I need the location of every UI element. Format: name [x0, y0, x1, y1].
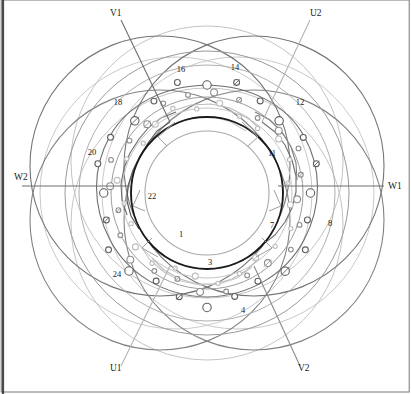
slot-label-1: 1	[179, 229, 183, 239]
coil-node	[106, 247, 112, 253]
slot-label-7: 7	[270, 220, 274, 230]
coil-node	[125, 157, 129, 161]
coil-node	[203, 81, 211, 89]
coil-node	[305, 217, 311, 223]
winding-diagram-svg: V1U2W1W2U1V2 161418122011227813244	[0, 0, 411, 394]
winding-diagram-figure: V1U2W1W2U1V2 161418122011227813244	[0, 0, 411, 394]
coil-node	[224, 289, 229, 294]
coil-node	[245, 273, 250, 278]
coil-node	[153, 278, 159, 284]
coil-node	[273, 244, 277, 248]
coil-node	[255, 116, 260, 121]
coil-node	[150, 261, 154, 265]
slot-label-24: 24	[113, 269, 122, 279]
coil-node	[132, 244, 138, 250]
slot-label-3: 3	[208, 257, 212, 267]
terminal-label-u1: U1	[110, 363, 122, 373]
coil-node	[216, 281, 220, 285]
terminal-label-w1: W1	[388, 181, 402, 191]
coil-node	[186, 93, 191, 98]
coil-node	[174, 80, 180, 86]
coil-node	[297, 223, 302, 228]
coil-node	[118, 233, 123, 238]
coil-node	[275, 117, 283, 125]
slot-label-14: 14	[231, 62, 240, 72]
terminal-label-v2: V2	[298, 363, 310, 373]
slot-label-16: 16	[177, 64, 186, 74]
coil-node	[171, 106, 175, 110]
coil-node	[127, 138, 132, 143]
slot-label-11: 11	[268, 148, 276, 158]
coil-node	[195, 107, 199, 111]
coil-node	[255, 126, 259, 130]
coil-node	[203, 303, 211, 311]
coil-node	[151, 98, 157, 104]
coil-node	[296, 146, 301, 151]
coil-node	[141, 141, 145, 145]
coil-node	[109, 158, 114, 163]
coil-node	[192, 273, 198, 279]
coil-node	[125, 267, 133, 275]
coil-node	[287, 158, 291, 162]
coil-node	[276, 136, 282, 142]
coil-node	[197, 289, 204, 296]
coil-node	[127, 256, 134, 263]
coil-node	[232, 293, 238, 299]
coil-node	[289, 226, 293, 230]
slot-label-20: 20	[88, 147, 97, 157]
coil-node	[217, 100, 223, 106]
coil-node	[257, 98, 263, 104]
slot-label-12: 12	[296, 97, 305, 107]
coil-node	[211, 89, 218, 96]
slot-label-8: 8	[328, 218, 332, 228]
coil-node	[288, 247, 293, 252]
coil-node	[95, 161, 101, 167]
coil-node	[237, 271, 241, 275]
coil-node	[129, 222, 133, 226]
coil-node	[100, 189, 108, 197]
coil-node	[294, 196, 301, 203]
terminal-label-v1: V1	[110, 8, 122, 18]
coil-node	[108, 134, 114, 140]
coil-node	[287, 202, 293, 208]
coil-node	[275, 127, 282, 134]
terminal-label-u2: U2	[310, 8, 322, 18]
coil-node	[306, 189, 314, 197]
slot-label-18: 18	[114, 97, 123, 107]
coil-node	[114, 177, 120, 183]
coil-node	[302, 247, 308, 253]
coil-node	[300, 134, 306, 140]
slot-label-22: 22	[148, 191, 157, 201]
terminal-label-w2: W2	[14, 172, 28, 182]
coil-node	[152, 269, 157, 274]
